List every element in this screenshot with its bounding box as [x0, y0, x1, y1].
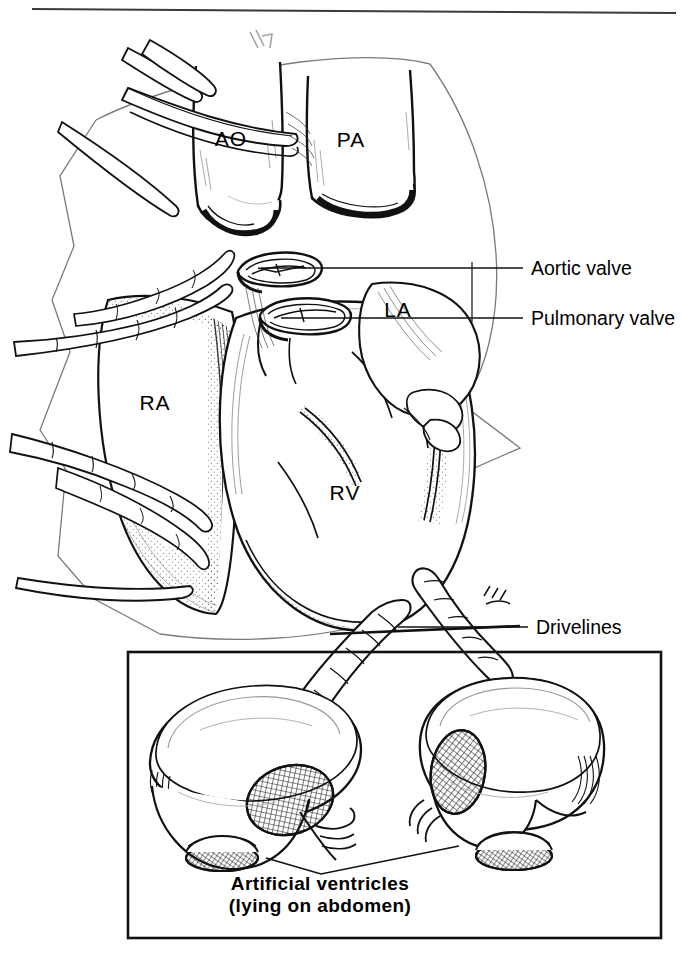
label-pulmonary-valve: Pulmonary valve [531, 307, 675, 329]
label-rv: RV [330, 481, 361, 504]
label-aortic-valve: Aortic valve [531, 257, 632, 279]
label-pa: PA [337, 128, 365, 151]
caption-line-2: (lying on abdomen) [229, 895, 411, 916]
label-ao: AO [215, 127, 247, 150]
graft-port-mesh-bottom-right [476, 832, 552, 870]
graft-port-mesh-bottom [186, 836, 258, 871]
label-ra: RA [139, 391, 170, 414]
caption-line-1: Artificial ventricles [231, 873, 409, 894]
label-drivelines: Drivelines [536, 616, 622, 638]
figure-canvas: AO PA LA RA RV Aortic valve Pulmonary va… [0, 0, 682, 954]
label-la: LA [384, 298, 412, 321]
heart-illustration: AO PA LA RA RV Aortic valve Pulmonary va… [0, 0, 682, 954]
